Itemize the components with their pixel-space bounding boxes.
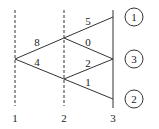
outcome-label: 3 [131, 53, 137, 65]
edge-weight: 4 [34, 56, 40, 68]
stage-label: 3 [110, 112, 116, 124]
edge-weight: 1 [85, 76, 91, 88]
outcome-label: 2 [131, 93, 137, 105]
trellis-diagram: 8 4 5 0 2 1 1 3 2 1 2 3 [0, 0, 159, 129]
stage-label: 2 [61, 112, 67, 124]
outcome-label: 1 [131, 11, 137, 23]
edge-weight: 8 [34, 36, 40, 48]
edge-weight: 5 [85, 15, 91, 27]
edge-weight: 2 [85, 57, 91, 69]
edge-weight: 0 [85, 36, 91, 48]
stage-label: 1 [12, 112, 18, 124]
